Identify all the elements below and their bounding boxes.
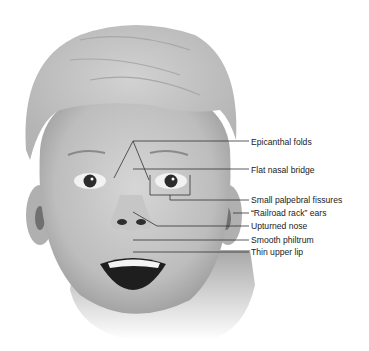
label-smooth-philtrum: Smooth philtrum	[251, 235, 314, 245]
face-illustration	[0, 0, 369, 351]
label-small-palpebral-fissures: Small palpebral fissures	[251, 195, 342, 205]
label-railroad-rack-ears: “Railroad rack” ears	[251, 208, 326, 218]
label-thin-upper-lip: Thin upper lip	[251, 247, 303, 257]
label-flat-nasal-bridge: Flat nasal bridge	[251, 165, 315, 175]
label-epicanthal-folds: Epicanthal folds	[251, 137, 312, 147]
label-upturned-nose: Upturned nose	[251, 221, 307, 231]
